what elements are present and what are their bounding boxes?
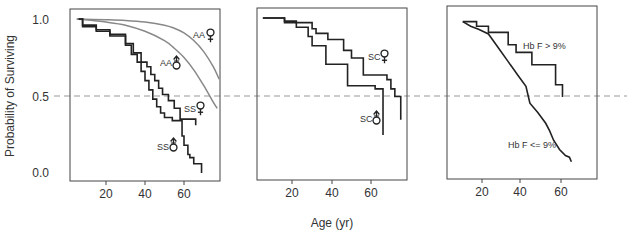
label-sc-male: SC (360, 114, 373, 124)
p3-xtick-40: 40 (513, 185, 527, 199)
p1-xtick-60: 60 (177, 187, 191, 201)
y-axis-label: Probability of Surviving (3, 35, 17, 157)
male-symbol-icon (170, 138, 177, 151)
y-tick-1: 1.0 (32, 13, 49, 27)
female-symbol-icon (207, 29, 214, 42)
curve-sc-female (263, 18, 401, 120)
p3-xtick-60: 60 (554, 185, 568, 199)
y-tick-0.5: 0.5 (32, 90, 49, 104)
p2-xtick-40: 40 (325, 186, 339, 200)
y-tick-0: 0.0 (32, 166, 49, 180)
p2-xtick-20: 20 (285, 186, 299, 200)
female-symbol-icon (197, 102, 204, 115)
p2-xtick-60: 60 (364, 186, 378, 200)
curve-ss-female (79, 19, 196, 125)
p1-xtick-20: 20 (99, 187, 113, 201)
label-hbf-high: Hb F > 9% (523, 41, 566, 51)
panel-3-frame (447, 6, 597, 179)
label-sc-female: SC (368, 52, 381, 62)
label-ss-male: SS (157, 142, 169, 152)
female-symbol-icon (381, 50, 388, 63)
curve-aa-female (77, 19, 219, 79)
p1-xtick-40: 40 (138, 187, 152, 201)
x-axis-label: Age (yr) (311, 216, 354, 230)
label-aa-male: AA (160, 58, 172, 68)
p3-xtick-20: 20 (475, 185, 489, 199)
label-aa-female: AA (193, 30, 205, 40)
panel-1-x-ticks (106, 181, 184, 185)
label-ss-female: SS (184, 104, 196, 114)
panel-2-x-ticks (292, 180, 371, 184)
male-symbol-icon (373, 111, 380, 124)
survival-figure: Probability of Surviving 1.0 0.5 0.0 20 … (0, 0, 627, 235)
male-symbol-icon (173, 56, 180, 69)
label-hbf-low: Hb F <= 9% (508, 140, 556, 150)
panel-2-frame (257, 8, 407, 180)
panel-3-x-ticks (482, 179, 561, 183)
curve-hb-f-9- (463, 22, 563, 97)
